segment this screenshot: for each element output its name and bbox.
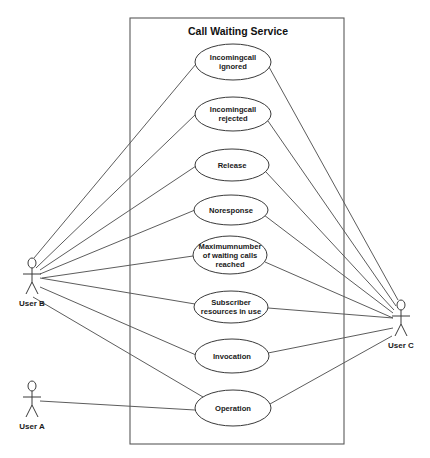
- stick-figure-icon: [392, 300, 410, 336]
- use-case-label: Release: [218, 161, 247, 170]
- association-userC-uc1: [269, 67, 398, 300]
- stick-figure-icon: [23, 258, 41, 294]
- actor-userB[interactable]: User B: [19, 258, 45, 308]
- use-case-uc1[interactable]: Incomingcallignored: [195, 44, 271, 80]
- association-userB-uc5: [42, 256, 193, 278]
- use-cases: IncomingcallignoredIncomingcallrejectedR…: [193, 44, 271, 426]
- actor-label: User C: [388, 341, 414, 350]
- use-case-label: Subscriber: [211, 298, 251, 307]
- association-userC-uc3: [266, 172, 394, 310]
- use-case-label: Incomingcall: [210, 105, 256, 114]
- use-case-uc5[interactable]: Maximumnumberof waiting callsreached: [193, 236, 267, 274]
- use-case-uc8[interactable]: Operation: [195, 390, 271, 426]
- use-case-label: Operation: [215, 404, 251, 413]
- association-userB-uc3: [40, 166, 196, 270]
- use-case-uc6[interactable]: Subscriberresources in use: [194, 291, 268, 323]
- use-case-uc7[interactable]: Invocation: [195, 339, 269, 373]
- association-userC-uc2: [268, 121, 396, 306]
- use-case-label: Noresponse: [209, 206, 253, 215]
- system-boundary: [130, 18, 344, 444]
- use-case-uc2[interactable]: Incomingcallrejected: [195, 97, 271, 131]
- use-case-label: Invocation: [213, 352, 251, 361]
- use-case-label: reached: [215, 260, 244, 269]
- stick-figure-icon: [23, 381, 41, 417]
- actor-label: User B: [19, 299, 45, 308]
- use-case-diagram: Call Waiting Service Incomingcallignored…: [0, 0, 430, 458]
- use-case-label: ignored: [219, 62, 247, 71]
- system-title: Call Waiting Service: [188, 25, 288, 37]
- use-case-uc4[interactable]: Noresponse: [194, 195, 268, 225]
- association-userB-uc1: [34, 64, 196, 258]
- association-userC-uc8: [270, 336, 392, 404]
- use-case-label: resources in use: [201, 307, 261, 316]
- use-case-uc3[interactable]: Release: [195, 149, 269, 181]
- association-userC-uc4: [264, 215, 393, 313]
- use-case-label: Incomingcall: [210, 53, 256, 62]
- use-case-label: rejected: [218, 114, 247, 123]
- use-case-label: of waiting calls: [203, 251, 257, 260]
- association-userC-uc7: [268, 328, 393, 353]
- association-userB-uc6: [40, 278, 195, 304]
- association-userB-uc7: [40, 287, 196, 355]
- association-userA-uc8: [40, 401, 195, 410]
- association-userB-uc2: [36, 114, 196, 268]
- use-case-label: Maximumnumber: [199, 242, 262, 251]
- actor-label: User A: [19, 422, 45, 431]
- actor-userA[interactable]: User A: [19, 381, 45, 431]
